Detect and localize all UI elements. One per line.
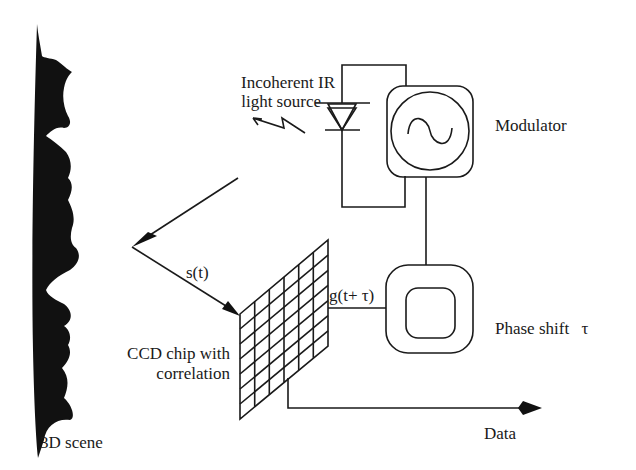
phase-shift-inner — [406, 288, 455, 338]
ccd-grid — [240, 240, 328, 419]
phase-shift-block — [386, 265, 473, 353]
sine-wave-icon — [408, 119, 452, 144]
tau-symbol: τ — [581, 319, 588, 338]
data-label: Data — [484, 423, 516, 444]
light-source-label-line2: light source — [205, 91, 321, 112]
emission-arrow-icon — [253, 118, 305, 133]
illumination-ray — [150, 178, 238, 235]
diode-icon — [315, 103, 370, 130]
source-wire-top — [342, 65, 406, 103]
illumination-arrowhead — [132, 232, 157, 247]
data-arrowhead — [518, 401, 542, 415]
reflected-signal-label: s(t) — [186, 262, 209, 283]
light-source-label-line1: Incoherent IR — [205, 72, 335, 93]
reflected-ray — [132, 247, 226, 306]
source-wire-bottom — [342, 130, 405, 207]
phase-shift-text: Phase shift — [495, 319, 569, 338]
scene-silhouette — [32, 24, 79, 458]
modulator-label: Modulator — [495, 115, 567, 136]
phase-shift-label: Phase shift τ — [495, 318, 588, 339]
reference-signal-label: g(t+ τ) — [329, 285, 374, 306]
tof-diagram — [0, 0, 636, 470]
data-wire — [288, 378, 522, 408]
scene-label: 3D scene — [40, 432, 103, 453]
ccd-label-line2: correlation — [100, 363, 230, 384]
ccd-label-line1: CCD chip with — [100, 343, 230, 364]
reflected-arrowhead — [222, 301, 240, 316]
